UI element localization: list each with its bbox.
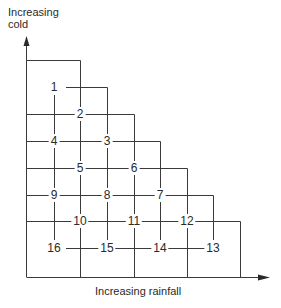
y-axis-arrowhead-icon: [24, 36, 30, 46]
cell-label: 7: [155, 188, 166, 202]
cell-label: 4: [49, 134, 60, 148]
cell-label: 14: [151, 241, 168, 255]
cell-label: 6: [129, 161, 140, 175]
cell-label: 10: [71, 214, 88, 228]
x-axis-label: Increasing rainfall: [95, 285, 181, 297]
cell-label: 2: [75, 107, 86, 121]
cell-label: 9: [49, 188, 60, 202]
x-axis-arrowhead-icon: [258, 275, 270, 281]
cell-label: 15: [98, 241, 115, 255]
cell-label: 11: [126, 214, 142, 228]
y-axis-label-line-2: cold: [8, 18, 78, 30]
cell-label: 13: [204, 241, 221, 255]
cell-label: 12: [178, 214, 195, 228]
y-axis-label: Increasing cold: [8, 6, 78, 30]
y-axis-label-line-1: Increasing: [8, 6, 78, 18]
cell-label: 16: [45, 241, 62, 255]
cell-label: 1: [49, 80, 60, 94]
cell-label: 5: [75, 161, 86, 175]
staircase-grid-diagram: [0, 0, 281, 308]
cell-label: 8: [102, 188, 113, 202]
cell-label: 3: [102, 134, 113, 148]
